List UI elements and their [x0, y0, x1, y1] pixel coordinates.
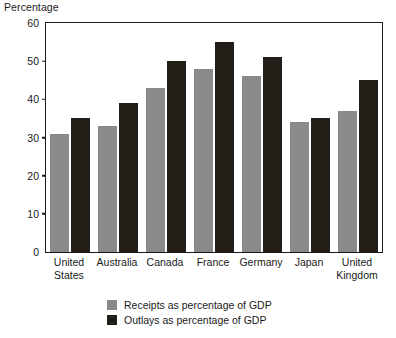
chart-legend: Receipts as percentage of GDPOutlays as … — [107, 298, 272, 328]
legend-swatch-outlays — [107, 315, 117, 325]
y-tick-0: 0 — [8, 247, 46, 258]
bar-group — [242, 23, 282, 252]
x-axis-label: UnitedStates — [54, 256, 84, 281]
y-tick-label: 10 — [8, 209, 42, 220]
bar — [119, 103, 138, 252]
x-axis-label-line1: Japan — [295, 256, 324, 268]
bar — [98, 126, 117, 252]
x-axis-label: France — [197, 256, 230, 269]
bars-layer — [46, 23, 382, 252]
y-axis-title: Percentage — [4, 1, 59, 13]
bar — [167, 61, 186, 252]
bar — [194, 69, 213, 252]
y-tick-label: 30 — [8, 132, 42, 143]
y-tick-label: 20 — [8, 170, 42, 181]
bar-chart-figure: Percentage 0102030405060 UnitedStatesAus… — [0, 0, 396, 338]
bar-group — [194, 23, 234, 252]
bar — [215, 42, 234, 252]
legend-swatch-receipts — [107, 300, 117, 310]
plot-area: 0102030405060 — [45, 22, 383, 253]
bar-group — [290, 23, 330, 252]
x-axis-label-line1: Canada — [147, 256, 184, 268]
bar — [359, 80, 378, 252]
y-tick-50: 50 — [8, 56, 46, 67]
bar — [242, 76, 261, 252]
x-axis-label: Canada — [147, 256, 184, 269]
x-axis-label-line1: Australia — [97, 256, 138, 268]
bar — [290, 122, 309, 252]
x-axis-label-line1: Germany — [239, 256, 282, 268]
y-tick-40: 40 — [8, 94, 46, 105]
bar — [263, 57, 282, 252]
bar — [338, 111, 357, 252]
bar-group — [338, 23, 378, 252]
x-axis-label-line2: Kingdom — [336, 269, 377, 282]
legend-label: Outlays as percentage of GDP — [124, 315, 266, 326]
bar-group — [98, 23, 138, 252]
y-tick-label: 40 — [8, 94, 42, 105]
legend-item: Outlays as percentage of GDP — [107, 313, 272, 327]
x-axis-label-line1: United — [54, 256, 84, 268]
y-tick-60: 60 — [8, 18, 46, 29]
y-tick-label: 0 — [8, 247, 42, 258]
y-tick-label: 50 — [8, 56, 42, 67]
x-axis-label: Germany — [239, 256, 282, 269]
y-tick-10: 10 — [8, 209, 46, 220]
x-axis-labels: UnitedStatesAustraliaCanadaFranceGermany… — [45, 256, 383, 294]
x-axis-label: Japan — [295, 256, 324, 269]
x-axis-label-line1: France — [197, 256, 230, 268]
bar — [71, 118, 90, 252]
x-axis-label-line1: United — [342, 256, 372, 268]
y-tick-label: 60 — [8, 18, 42, 29]
legend-label: Receipts as percentage of GDP — [124, 300, 272, 311]
bar — [146, 88, 165, 252]
bar — [311, 118, 330, 252]
x-axis-label-line2: States — [54, 269, 84, 282]
bar-group — [146, 23, 186, 252]
legend-item: Receipts as percentage of GDP — [107, 298, 272, 312]
y-tick-20: 20 — [8, 170, 46, 181]
bar-group — [50, 23, 90, 252]
x-axis-label: UnitedKingdom — [336, 256, 377, 281]
bar — [50, 134, 69, 252]
x-axis-label: Australia — [97, 256, 138, 269]
y-tick-30: 30 — [8, 132, 46, 143]
